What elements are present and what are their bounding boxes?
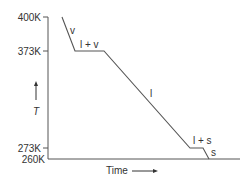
tick-label-273: 273K <box>18 143 42 154</box>
y-axis-label: T <box>33 106 40 117</box>
tick-label-400: 400K <box>18 12 42 23</box>
tick-label-373: 373K <box>18 46 42 57</box>
phase-label-l-plus-v: l + v <box>80 39 99 50</box>
phase-label-l: l <box>150 88 152 99</box>
phase-label-v: v <box>70 25 75 36</box>
y-arrow-head-icon <box>34 81 38 86</box>
x-arrow-head-icon <box>153 169 158 173</box>
cooling-curve-chart: 400K 373K 273K 260K T Time v l + v l l +… <box>0 0 249 180</box>
x-axis-label: Time <box>106 165 128 176</box>
phase-label-s: s <box>211 147 216 158</box>
phase-label-l-plus-s: l + s <box>193 135 212 146</box>
tick-label-260: 260K <box>22 154 46 165</box>
